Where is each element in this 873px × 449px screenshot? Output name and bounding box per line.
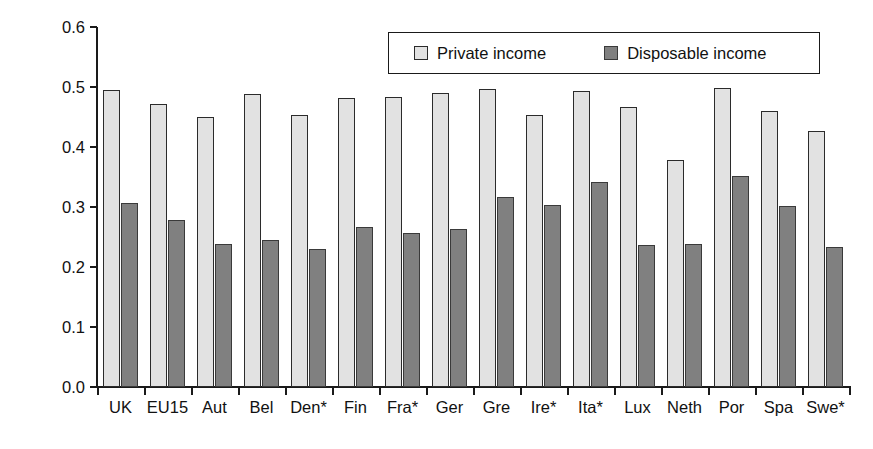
- bar-disposable-income[interactable]: [638, 245, 656, 387]
- gini-coefficient-bar-chart: Gini coefficient 0.00.10.20.30.40.50.6 P…: [0, 0, 873, 449]
- x-axis-tick-label: Por: [719, 398, 745, 417]
- x-axis-tick-mark: [802, 386, 804, 395]
- y-axis-tick-mark: [90, 86, 97, 88]
- bar-private-income[interactable]: [526, 115, 544, 387]
- legend-item-private-income: Private income: [414, 44, 546, 63]
- x-axis-tick-label: Fra*: [387, 398, 418, 417]
- x-axis-tick-label: Bel: [250, 398, 274, 417]
- x-axis-tick-mark: [238, 386, 240, 395]
- bar-disposable-income[interactable]: [450, 229, 468, 387]
- x-axis-tick-label: UK: [109, 398, 132, 417]
- bar-group: [567, 27, 614, 387]
- y-axis-tick-mark: [90, 146, 97, 148]
- y-axis-tick-label: 0.0: [0, 378, 97, 397]
- x-axis-tick-mark: [567, 386, 569, 395]
- x-axis-tick-mark: [473, 386, 475, 395]
- x-axis-tick-label: Neth: [667, 398, 702, 417]
- bar-group: [661, 27, 708, 387]
- x-axis-tick-label: Swe*: [806, 398, 845, 417]
- chart-legend: Private income Disposable income: [388, 32, 820, 74]
- y-axis-tick-label: 0.5: [0, 78, 97, 97]
- bar-disposable-income[interactable]: [403, 233, 421, 387]
- bar-disposable-income[interactable]: [544, 205, 562, 387]
- x-axis-tick-mark: [755, 386, 757, 395]
- x-axis-tick-mark: [379, 386, 381, 395]
- bar-private-income[interactable]: [432, 93, 450, 387]
- bar-group: [379, 27, 426, 387]
- bar-disposable-income[interactable]: [779, 206, 797, 387]
- legend-label-disposable-income: Disposable income: [627, 44, 766, 63]
- bar-group: [332, 27, 379, 387]
- x-axis-tick-label: Ita*: [578, 398, 603, 417]
- bar-group: [144, 27, 191, 387]
- bar-group: [708, 27, 755, 387]
- bar-disposable-income[interactable]: [168, 220, 186, 387]
- legend-label-private-income: Private income: [437, 44, 546, 63]
- x-axis-tick-label: Den*: [290, 398, 327, 417]
- x-axis-tick-label: Fin: [344, 398, 367, 417]
- bar-group: [802, 27, 849, 387]
- x-axis-tick-label: EU15: [147, 398, 188, 417]
- bar-private-income[interactable]: [573, 91, 591, 387]
- y-axis-tick-label: 0.4: [0, 138, 97, 157]
- y-axis-tick-label: 0.3: [0, 198, 97, 217]
- x-axis-tick-mark: [520, 386, 522, 395]
- bar-group: [614, 27, 661, 387]
- y-axis-tick-mark: [90, 206, 97, 208]
- bar-group: [285, 27, 332, 387]
- x-axis-tick-mark: [332, 386, 334, 395]
- legend-item-disposable-income: Disposable income: [604, 44, 766, 63]
- plot-area: 0.00.10.20.30.40.50.6: [97, 27, 849, 387]
- bar-group: [97, 27, 144, 387]
- bar-private-income[interactable]: [338, 98, 356, 387]
- bar-disposable-income[interactable]: [826, 247, 844, 387]
- y-axis-tick-label: 0.2: [0, 258, 97, 277]
- x-axis-tick-mark: [849, 386, 851, 395]
- bar-private-income[interactable]: [197, 117, 215, 387]
- bar-disposable-income[interactable]: [732, 176, 750, 387]
- bar-disposable-income[interactable]: [591, 182, 609, 387]
- bar-group: [473, 27, 520, 387]
- y-axis-tick-label: 0.6: [0, 18, 97, 37]
- bar-group: [238, 27, 285, 387]
- bar-disposable-income[interactable]: [356, 227, 374, 387]
- bar-private-income[interactable]: [150, 104, 168, 387]
- bar-private-income[interactable]: [103, 90, 121, 387]
- x-axis-tick-mark: [191, 386, 193, 395]
- bar-disposable-income[interactable]: [215, 244, 233, 387]
- x-axis-tick-label: Aut: [202, 398, 227, 417]
- y-axis-tick-mark: [90, 386, 97, 388]
- x-axis-tick-mark: [614, 386, 616, 395]
- bar-group: [191, 27, 238, 387]
- bar-private-income[interactable]: [714, 88, 732, 387]
- bar-disposable-income[interactable]: [685, 244, 703, 387]
- x-axis-tick-label: Ire*: [531, 398, 557, 417]
- legend-swatch-disposable-income: [604, 46, 618, 60]
- bar-disposable-income[interactable]: [262, 240, 280, 387]
- bar-group: [755, 27, 802, 387]
- bar-group: [520, 27, 567, 387]
- bar-private-income[interactable]: [808, 131, 826, 387]
- bar-disposable-income[interactable]: [121, 203, 139, 387]
- x-axis-tick-label: Lux: [624, 398, 651, 417]
- bar-private-income[interactable]: [761, 111, 779, 387]
- x-axis-tick-mark: [661, 386, 663, 395]
- x-axis-tick-label: Ger: [436, 398, 464, 417]
- x-axis-tick-mark: [426, 386, 428, 395]
- x-axis-tick-label: Spa: [764, 398, 793, 417]
- bar-private-income[interactable]: [667, 160, 685, 387]
- legend-swatch-private-income: [414, 46, 428, 60]
- y-axis-tick-mark: [90, 26, 97, 28]
- bar-private-income[interactable]: [291, 115, 309, 387]
- x-axis-tick-mark: [285, 386, 287, 395]
- y-axis-tick-mark: [90, 266, 97, 268]
- bar-private-income[interactable]: [479, 89, 497, 387]
- x-axis-tick-mark: [144, 386, 146, 395]
- bar-disposable-income[interactable]: [497, 197, 515, 387]
- bar-disposable-income[interactable]: [309, 249, 327, 387]
- bar-private-income[interactable]: [244, 94, 262, 387]
- bar-private-income[interactable]: [385, 97, 403, 387]
- x-axis-tick-mark: [708, 386, 710, 395]
- bar-private-income[interactable]: [620, 107, 638, 387]
- x-axis-tick-label: Gre: [483, 398, 511, 417]
